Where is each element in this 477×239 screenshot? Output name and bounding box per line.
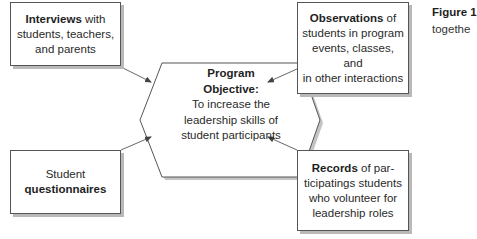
- observations-line2: students in program: [302, 27, 404, 39]
- objective-body-1: To increase the: [160, 97, 302, 113]
- observations-line4: in other interactions: [303, 72, 403, 84]
- observations-label: Observations: [310, 12, 384, 24]
- figure-label: Figure 1: [432, 4, 477, 21]
- observations-line3: events, classes, and: [312, 42, 394, 69]
- questionnaires-label: questionnaires: [25, 183, 107, 195]
- records-line3: who volunteer for: [309, 192, 397, 204]
- interviews-line3: and parents: [35, 43, 96, 55]
- records-box: Records of par- ticipatings students who…: [297, 150, 409, 231]
- interviews-box: Interviews with students, teachers, and …: [10, 2, 121, 66]
- objective-body-3: student participants: [160, 128, 302, 144]
- interviews-label: Interviews: [26, 13, 82, 25]
- records-label: Records: [312, 162, 358, 174]
- objective-body-2: leadership skills of: [160, 113, 302, 129]
- objective-title-1: Program: [160, 66, 302, 82]
- observations-line1: of: [383, 12, 396, 24]
- records-line1: of par-: [358, 162, 394, 174]
- questionnaires-box: Student questionnaires: [10, 150, 121, 214]
- arrow-questionnaires: [121, 137, 151, 150]
- observations-box: Observations of students in program even…: [297, 2, 409, 94]
- questionnaires-line1: Student: [46, 168, 86, 180]
- arrow-interviews: [121, 67, 151, 82]
- records-line2: ticipatings students: [304, 177, 402, 189]
- program-objective-text: Program Objective: To increase the leade…: [160, 66, 302, 144]
- interviews-line2: students, teachers,: [17, 28, 114, 40]
- interviews-line1: with: [82, 13, 106, 25]
- records-line4: leadership roles: [312, 207, 393, 219]
- objective-title-2: Objective:: [160, 82, 302, 98]
- caption-text: togethe: [432, 21, 477, 38]
- figure-caption: Figure 1 togethe: [432, 4, 477, 38]
